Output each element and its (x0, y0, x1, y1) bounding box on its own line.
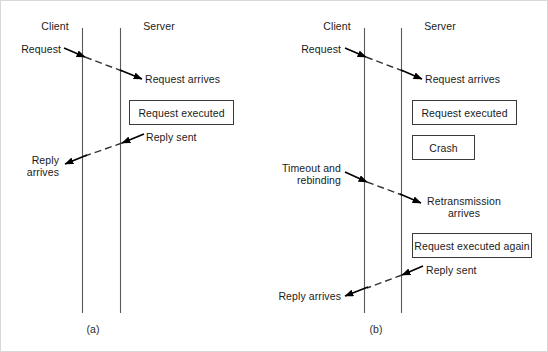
panel-a-request-dashed (85, 57, 122, 71)
panel-a-reply-dashed (85, 143, 122, 156)
panel-a-reply-arrives-label-line2: arrives (3, 167, 59, 179)
panel-a-client-header: Client (31, 21, 79, 33)
panel-b-client-header: Client (313, 21, 361, 33)
panel-b-reply-sent-label: Reply sent (426, 265, 477, 277)
panel-a-reply-sent-arrow (122, 134, 144, 143)
panel-b-reply-arrives-label: Reply arrives (263, 291, 341, 303)
panel-a-server-header: Server (135, 21, 183, 33)
panel-b-timeout-label-line2: rebinding (263, 175, 341, 187)
panel-a-request-executed-box: Request executed (129, 100, 234, 125)
panel-b-request-arrow-head (345, 48, 366, 57)
panel-b-caption: (b) (360, 323, 392, 335)
panel-b-retransmission-arrives-arrow (400, 194, 421, 203)
panel-b-retransmission-dashed (367, 182, 402, 195)
panel-b-request-label: Request (283, 44, 341, 56)
panel-b-request-arrives-label: Request arrives (425, 74, 500, 86)
panel-b-timeout-label-line1: Timeout and (263, 163, 341, 175)
panel-b-request-executed-again-box: Request executed again (412, 233, 532, 258)
panel-a-request-label: Request (3, 44, 61, 56)
panel-b-retransmission-label-line2: arrives (424, 208, 504, 220)
panel-b-request-dashed (366, 57, 403, 71)
panel-b-reply-dashed (367, 275, 402, 288)
panel-a-request-arrives-arrow (120, 70, 142, 79)
panel-b-server-header: Server (416, 21, 464, 33)
panel-b-crash-box: Crash (412, 135, 475, 160)
panel-b-retransmission-arrow-head (345, 172, 367, 182)
panel-b-request-arrives-arrow (401, 70, 422, 79)
panel-a-reply-sent-label: Reply sent (146, 132, 197, 144)
panel-b-reply-sent-arrow (402, 266, 423, 275)
panel-a-request-arrow-head (64, 48, 85, 57)
panel-b-request-executed-box: Request executed (412, 100, 517, 125)
panel-a-reply-arrives-arrow (65, 155, 87, 164)
panel-a-caption: (a) (77, 323, 109, 335)
panel-a-reply-arrives-label-line1: Reply (3, 155, 59, 167)
panel-a-request-arrives-label: Request arrives (145, 74, 220, 86)
panel-b-retransmission-label-line1: Retransmission (424, 196, 504, 208)
rpc-timeline-figure: Client Server Request Request arrives Re… (0, 0, 548, 352)
